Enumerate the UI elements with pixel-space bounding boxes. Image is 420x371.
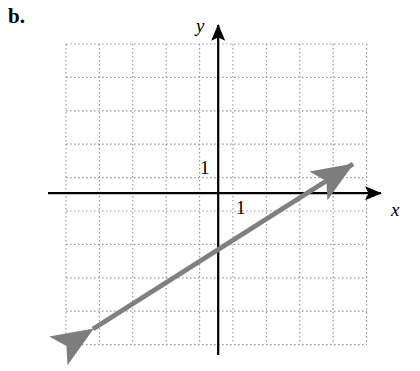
graph-figure: b. [0,0,420,371]
coordinate-plane [0,0,420,371]
y-axis-label: y [196,16,204,35]
y-tick-label-1: 1 [200,158,210,177]
x-axis-label: x [391,200,399,219]
part-label: b. [8,6,25,27]
plotted-line [93,164,353,329]
x-tick-label-1: 1 [236,198,246,217]
